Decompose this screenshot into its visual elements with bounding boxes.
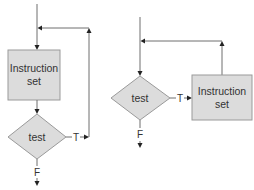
arrow-down-icon — [35, 181, 40, 186]
arrow-down-icon — [35, 109, 40, 114]
arrow-down-icon — [138, 71, 143, 76]
arrow-left-icon — [141, 39, 146, 44]
process-label-line2: set — [27, 75, 41, 87]
decision-label: test — [29, 131, 46, 143]
flowchart-canvas: Instruction set test T F test — [0, 0, 254, 190]
process-label-line1: Instruction — [198, 85, 247, 97]
left-flowchart: Instruction set test T F — [8, 4, 92, 186]
arrow-down-icon — [138, 143, 143, 148]
arrow-left-icon — [38, 26, 43, 31]
arrow-down-icon — [35, 45, 40, 50]
process-label-line2: set — [215, 98, 229, 110]
true-label: T — [177, 93, 183, 104]
decision-label: test — [132, 92, 149, 104]
false-label: F — [34, 167, 40, 178]
process-label-line1: Instruction — [10, 62, 59, 74]
arrow-right-icon — [84, 135, 89, 140]
arrow-right-icon — [187, 96, 192, 101]
arrow-up-icon — [220, 41, 225, 46]
arrow-up-icon — [87, 28, 92, 33]
right-flowchart: test T Instruction set F — [111, 17, 252, 148]
true-label: T — [73, 132, 79, 143]
false-label: F — [137, 129, 143, 140]
